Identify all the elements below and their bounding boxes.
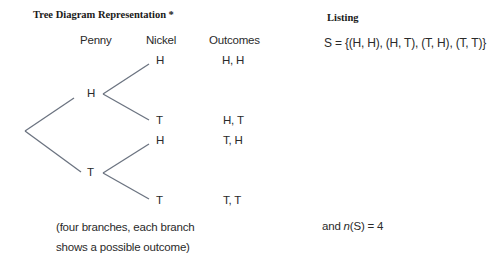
count-rest: (S) = 4 [350, 220, 383, 232]
sample-space-count: and n(S) = 4 [322, 220, 383, 232]
tree-caption: (four branches, each branch shows a poss… [56, 217, 176, 257]
nickel-node-ht: T [156, 114, 163, 126]
caption-line-2: shows a possible outcome) [56, 237, 176, 257]
nickel-node-hh: H [156, 54, 164, 66]
branch-root-to-t [25, 131, 81, 172]
outcome-th: T, H [223, 134, 243, 146]
sample-space-set: S = {(H, H), (H, T), (T, H), (T, T)} [324, 36, 486, 50]
branch-h-to-t [103, 94, 149, 120]
listing-heading: Listing [327, 12, 359, 23]
branch-t-to-t [103, 173, 149, 199]
penny-node-h: H [87, 87, 95, 99]
branch-h-to-h [103, 64, 149, 94]
outcome-hh: H, H [222, 54, 244, 66]
outcome-tt: T, T [223, 194, 241, 206]
nickel-node-tt: T [156, 194, 163, 206]
caption-line-1: (four branches, each branch [56, 217, 176, 237]
count-prefix: and [322, 220, 344, 232]
branch-t-to-h [103, 144, 149, 173]
outcome-ht: H, T [223, 114, 244, 126]
nickel-node-th: H [156, 134, 164, 146]
penny-node-t: T [87, 166, 94, 178]
branch-root-to-h [25, 98, 74, 131]
